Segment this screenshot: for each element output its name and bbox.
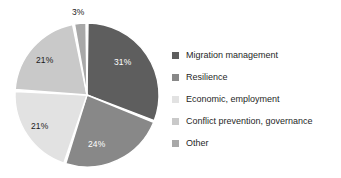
pie-slice-value-label: 21% [36, 55, 53, 65]
legend-swatch-icon [172, 52, 179, 59]
legend-swatch-icon [172, 118, 179, 125]
legend-item[interactable]: Conflict prevention, governance [172, 110, 341, 132]
legend-item[interactable]: Economic, employment [172, 88, 341, 110]
legend-item-label: Migration management [186, 50, 278, 61]
legend-swatch-icon [172, 74, 179, 81]
pie-slice-value-label: 21% [31, 121, 48, 131]
pie-plot-area: 31%24%21%21%3% [0, 0, 175, 178]
legend-swatch-icon [172, 96, 179, 103]
pie-svg [0, 0, 175, 178]
legend-item-label: Economic, employment [186, 94, 280, 105]
legend-item-label: Resilience [186, 72, 228, 83]
legend-swatch-icon [172, 140, 179, 147]
pie-slices [15, 23, 159, 167]
legend-item-label: Other [186, 138, 209, 149]
pie-slice-value-label: 31% [114, 57, 131, 67]
chart-legend: Migration managementResilienceEconomic, … [172, 44, 341, 154]
legend-item-label: Conflict prevention, governance [186, 116, 313, 127]
pie-chart-figure: 31%24%21%21%3% Migration managementResil… [0, 0, 341, 178]
pie-slice-value-label: 3% [72, 7, 85, 17]
legend-item[interactable]: Resilience [172, 66, 341, 88]
legend-item[interactable]: Other [172, 132, 341, 154]
legend-item[interactable]: Migration management [172, 44, 341, 66]
pie-slice-value-label: 24% [88, 139, 105, 149]
